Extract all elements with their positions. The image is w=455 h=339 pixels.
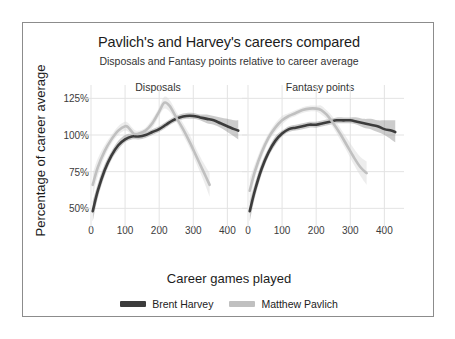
legend-label-matthew-pavlich: Matthew Pavlich xyxy=(261,298,337,310)
chart-legend: Brent Harvey Matthew Pavlich xyxy=(23,298,435,310)
series-line xyxy=(93,116,239,212)
x-axis-ticks-fantasy: 0100200300400 xyxy=(248,225,398,239)
x-axis-ticks-disposals: 0100200300400 xyxy=(91,225,241,239)
plot-panel-fantasy xyxy=(248,91,398,223)
legend-label-brent-harvey: Brent Harvey xyxy=(152,298,213,310)
y-tick-label: 100% xyxy=(47,130,89,141)
y-tick-label: 125% xyxy=(47,93,89,104)
plot-area xyxy=(248,91,398,223)
y-tick-label: 50% xyxy=(47,203,89,214)
confidence-ribbon xyxy=(93,113,239,222)
plot-area xyxy=(91,91,241,223)
legend-swatch-matthew-pavlich xyxy=(229,301,255,307)
y-axis-ticks: 50%75%100%125% xyxy=(45,23,89,318)
legend-item-matthew-pavlich[interactable]: Matthew Pavlich xyxy=(229,298,337,310)
legend-swatch-brent-harvey xyxy=(120,301,146,307)
plot-panel-disposals xyxy=(91,91,241,223)
legend-item-brent-harvey[interactable]: Brent Harvey xyxy=(120,298,213,310)
y-tick-label: 75% xyxy=(47,166,89,177)
chart-frame: Pavlich's and Harvey's careers compared … xyxy=(22,22,434,317)
